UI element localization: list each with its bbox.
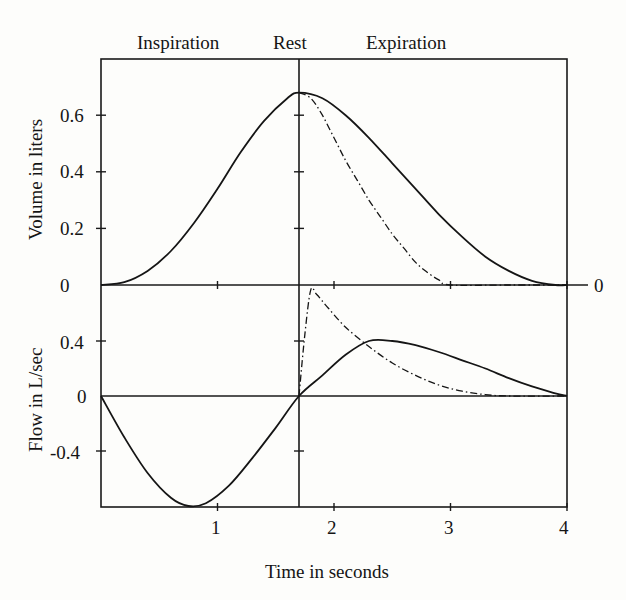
volume-tick-labels: 0.6 0.4 0.2 0 xyxy=(60,105,84,296)
phase-label-expiration: Expiration xyxy=(366,32,447,53)
flow-tick-neg0.4: -0.4 xyxy=(50,442,81,463)
vol-tick-0.2: 0.2 xyxy=(60,218,84,239)
axis-ticks xyxy=(96,115,567,511)
time-tick-1: 1 xyxy=(211,517,221,538)
flow-axis-title: Flow in L/sec xyxy=(25,348,46,453)
time-tick-labels: 1 2 3 4 xyxy=(211,517,569,538)
flow-curve-dashdot xyxy=(299,288,567,397)
vol-tick-0: 0 xyxy=(60,275,70,296)
plot-frame xyxy=(101,59,588,507)
time-tick-2: 2 xyxy=(327,517,337,538)
time-axis-title: Time in seconds xyxy=(265,561,389,582)
right-zero-label: 0 xyxy=(594,275,604,296)
time-tick-4: 4 xyxy=(559,517,569,538)
vol-tick-0.6: 0.6 xyxy=(60,105,84,126)
vol-tick-0.4: 0.4 xyxy=(60,161,84,182)
flow-tick-0.4: 0.4 xyxy=(60,332,84,353)
respiration-chart: Inspiration Rest Expiration 0.6 0.4 0.2 … xyxy=(0,0,626,600)
flow-curve-solid xyxy=(101,340,567,507)
volume-curve-solid xyxy=(101,93,567,286)
phase-label-rest: Rest xyxy=(273,32,308,53)
volume-axis-title: Volume in liters xyxy=(25,119,46,240)
time-tick-3: 3 xyxy=(444,517,454,538)
flow-tick-labels: 0.4 0 -0.4 xyxy=(50,332,87,463)
curves xyxy=(101,93,567,507)
phase-label-inspiration: Inspiration xyxy=(137,32,220,53)
volume-curve-dashdot xyxy=(299,93,567,286)
flow-tick-0: 0 xyxy=(77,386,87,407)
